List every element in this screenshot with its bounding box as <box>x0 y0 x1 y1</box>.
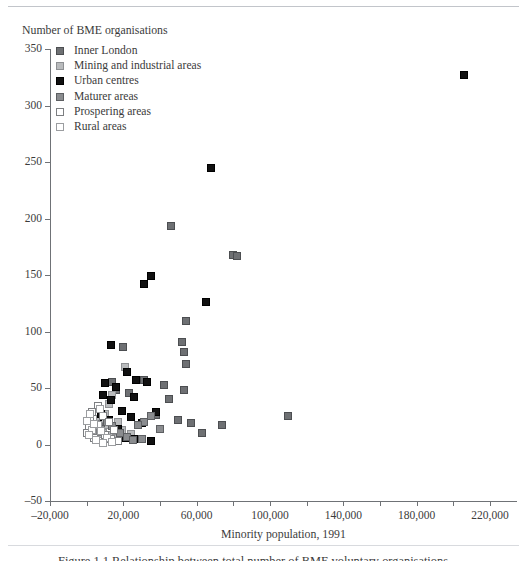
y-axis-tick <box>45 106 50 107</box>
y-axis-title: Number of BME organisations <box>22 24 168 37</box>
data-point <box>107 396 115 404</box>
data-point <box>165 395 173 403</box>
y-axis-tick-label: 50 <box>0 382 42 394</box>
legend: Inner LondonMining and industrial areasU… <box>56 44 286 135</box>
data-point <box>218 421 226 429</box>
data-point <box>119 343 127 351</box>
y-axis-tick-label: 250 <box>0 156 42 168</box>
data-point <box>198 429 206 437</box>
data-point <box>105 418 113 426</box>
legend-swatch-icon <box>56 108 64 116</box>
x-axis-tick-label: 220,000 <box>450 509 527 521</box>
y-axis-tick <box>45 162 50 163</box>
x-axis-line <box>50 501 517 502</box>
data-point <box>178 338 186 346</box>
data-point <box>110 426 118 434</box>
legend-item-maturer[interactable]: Maturer areas <box>56 90 286 105</box>
y-axis-tick-label-text: 50 <box>2 382 42 394</box>
y-axis-tick-label-text: 250 <box>2 156 42 168</box>
data-point <box>147 272 155 280</box>
scatter-plot: Number of BME organisations –50050100150… <box>0 0 527 561</box>
data-point <box>130 393 138 401</box>
data-point <box>107 341 115 349</box>
y-axis-tick-label-text: 350 <box>2 43 42 55</box>
legend-swatch-icon <box>56 123 64 131</box>
data-point <box>156 425 164 433</box>
page-bottom-rule <box>8 545 519 546</box>
data-point <box>123 368 131 376</box>
data-point <box>182 317 190 325</box>
legend-item-rural[interactable]: Rural areas <box>56 120 286 135</box>
data-point <box>187 419 195 427</box>
data-point <box>167 222 175 230</box>
legend-swatch-icon <box>56 47 64 55</box>
legend-item-label: Mining and industrial areas <box>74 59 201 73</box>
data-point <box>180 348 188 356</box>
legend-swatch-icon <box>56 93 64 101</box>
y-axis-tick-label-text: 0 <box>2 439 42 451</box>
legend-item-label: Rural areas <box>74 120 126 134</box>
legend-item-label: Prospering areas <box>74 105 151 119</box>
legend-item-inner-london[interactable]: Inner London <box>56 44 286 59</box>
x-axis-tick <box>453 501 454 506</box>
x-axis-tick <box>50 501 51 506</box>
data-point <box>138 435 146 443</box>
figure-page: Number of BME organisations –50050100150… <box>0 0 527 561</box>
legend-item-mining[interactable]: Mining and industrial areas <box>56 59 286 74</box>
legend-item-urban[interactable]: Urban centres <box>56 74 286 89</box>
data-point <box>132 376 140 384</box>
x-axis-tick <box>417 501 418 506</box>
x-axis-tick <box>160 501 161 506</box>
x-axis-title: Minority population, 1991 <box>50 528 517 541</box>
data-point <box>134 421 142 429</box>
data-point <box>284 412 292 420</box>
data-point <box>460 71 468 79</box>
data-point <box>143 378 151 386</box>
y-axis-tick-label: 300 <box>0 100 42 112</box>
y-axis-tick <box>45 275 50 276</box>
legend-item-prospering[interactable]: Prospering areas <box>56 105 286 120</box>
data-point <box>99 439 107 447</box>
data-point <box>108 438 116 446</box>
y-axis-tick <box>45 332 50 333</box>
x-axis-tick <box>343 501 344 506</box>
data-point <box>207 164 215 172</box>
y-axis-tick-label-text: 150 <box>2 269 42 281</box>
x-axis-tick <box>123 501 124 506</box>
y-axis-tick-label-text: –50 <box>2 495 42 507</box>
y-axis-tick-label: 200 <box>0 213 42 225</box>
figure-caption: Figure 1.1 Relationship between total nu… <box>58 553 513 561</box>
x-axis-tick-label: 20,000 <box>83 509 163 521</box>
data-point <box>140 280 148 288</box>
y-axis-tick-label-text: 200 <box>2 213 42 225</box>
x-axis-tick-label: 140,000 <box>303 509 383 521</box>
y-axis-tick <box>45 219 50 220</box>
legend-item-label: Inner London <box>74 44 137 58</box>
x-axis-tick <box>307 501 308 506</box>
data-point <box>90 420 98 428</box>
data-point <box>127 413 135 421</box>
y-axis-tick-label-text: 100 <box>2 326 42 338</box>
data-point <box>233 252 241 260</box>
y-axis-tick-label-text: 300 <box>2 100 42 112</box>
x-axis-tick-label: –20,000 <box>10 509 90 521</box>
y-axis-tick-label: 100 <box>0 326 42 338</box>
y-axis-line <box>50 49 51 502</box>
x-axis-tick <box>197 501 198 506</box>
y-axis-tick-label: 350 <box>0 43 42 55</box>
x-axis-tick <box>380 501 381 506</box>
y-axis-tick-label: 150 <box>0 269 42 281</box>
x-axis-tick <box>270 501 271 506</box>
y-axis-tick-label: 0 <box>0 439 42 451</box>
legend-swatch-icon <box>56 62 64 70</box>
y-axis-tick <box>45 388 50 389</box>
data-point <box>182 360 190 368</box>
data-point <box>160 381 168 389</box>
legend-item-label: Urban centres <box>74 74 139 88</box>
data-point <box>112 383 120 391</box>
data-point <box>101 379 109 387</box>
legend-item-label: Maturer areas <box>74 90 138 104</box>
data-point <box>147 437 155 445</box>
data-point <box>202 298 210 306</box>
x-axis-tick-label: 60,000 <box>157 509 237 521</box>
